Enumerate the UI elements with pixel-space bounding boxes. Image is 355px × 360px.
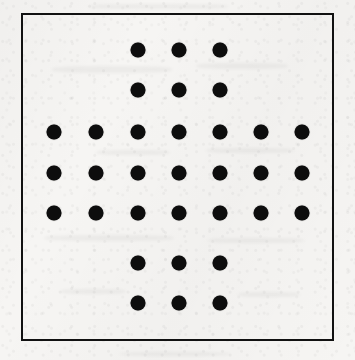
grid-dot [131, 83, 146, 98]
grid-dot [131, 43, 146, 58]
grid-dot [172, 43, 187, 58]
grid-dot [89, 125, 104, 140]
grid-dot [213, 206, 228, 221]
grid-dot [47, 166, 62, 181]
grid-dot [295, 206, 310, 221]
dot-grid [23, 15, 332, 339]
grid-dot [295, 166, 310, 181]
grid-dot [254, 206, 269, 221]
grid-dot [213, 83, 228, 98]
grid-dot [131, 206, 146, 221]
grid-dot [47, 125, 62, 140]
grid-dot [254, 166, 269, 181]
grid-dot [172, 166, 187, 181]
grid-dot [213, 43, 228, 58]
grid-dot [172, 125, 187, 140]
grid-dot [131, 125, 146, 140]
figure-border-frame [21, 13, 334, 341]
grid-dot [131, 256, 146, 271]
grid-dot [213, 256, 228, 271]
grid-dot [89, 206, 104, 221]
grid-dot [172, 206, 187, 221]
grid-dot [295, 125, 310, 140]
scan-smudge [88, 4, 228, 9]
grid-dot [254, 125, 269, 140]
grid-dot [172, 83, 187, 98]
grid-dot [213, 166, 228, 181]
grid-dot [213, 296, 228, 311]
grid-dot [172, 256, 187, 271]
grid-dot [47, 206, 62, 221]
figure-page [0, 0, 355, 360]
grid-dot [172, 296, 187, 311]
grid-dot [213, 125, 228, 140]
grid-dot [89, 166, 104, 181]
grid-dot [131, 166, 146, 181]
grid-dot [131, 296, 146, 311]
scan-smudge [120, 352, 230, 356]
